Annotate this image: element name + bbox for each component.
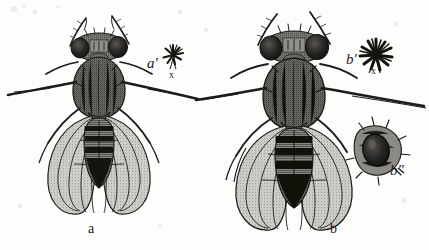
label-specimen-a: a (88, 222, 94, 236)
fly-illustration (0, 0, 429, 250)
figure-plate: a′ x b′ x b″ a b (0, 0, 429, 250)
label-a-prime: a′ (147, 56, 158, 71)
label-b-double-prime: b″ (390, 163, 404, 178)
specimen-b (196, 12, 426, 230)
label-specimen-b: b (330, 222, 337, 236)
label-b-prime-marker: x (371, 66, 376, 76)
detail-b-prime-rosette (360, 39, 392, 73)
specimen-a (8, 16, 198, 214)
detail-a-prime-rosette (164, 45, 184, 69)
label-b-prime: b′ (346, 52, 357, 67)
label-a-prime-marker: x (169, 70, 174, 80)
